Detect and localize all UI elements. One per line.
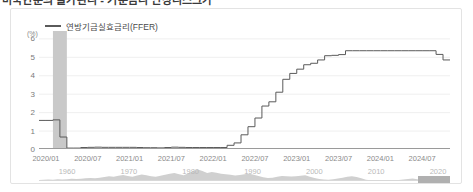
range-tick-label: 2010: [368, 167, 385, 176]
x-tick-label: 2022/07: [241, 154, 268, 163]
y-tick-label: 2: [31, 108, 35, 117]
x-tick-label: 2021/07: [158, 154, 185, 163]
range-selector[interactable]: 1960197019801990200020102020: [39, 167, 450, 183]
range-tick-label: 1970: [120, 167, 137, 176]
y-tick-label: 3: [31, 89, 35, 98]
x-tick-label: 2022/01: [200, 154, 227, 163]
x-tick-label: 2020/01: [32, 154, 59, 163]
y-tick-label: 6: [31, 34, 35, 43]
x-tick-label: 2021/01: [116, 154, 143, 163]
plot-area[interactable]: (%) 0123456 2020/012020/072021/012021/07…: [39, 31, 450, 149]
x-tick-label: 2024/07: [409, 154, 436, 163]
ffer-series-line: [39, 51, 450, 148]
x-tick-label: 2023/07: [325, 154, 352, 163]
range-tick-label: 1960: [59, 167, 76, 176]
line-swatch-icon: [45, 25, 61, 27]
range-tick-label: 1990: [244, 167, 261, 176]
y-tick-label: 5: [31, 52, 35, 61]
range-tick-label: 2020: [430, 167, 447, 176]
y-tick-label: 0: [31, 145, 35, 154]
range-tick-label: 2000: [306, 167, 323, 176]
x-tick-label: 2020/07: [74, 154, 101, 163]
grid-lines: [39, 39, 450, 149]
page-title: 미국연준의 물가관리 - 기준금리 인상리스크가: [2, 0, 213, 7]
chart-card: 연방기금실효금리(FFER) (%) 0123456 2020/012020/0…: [10, 8, 462, 184]
range-selection-handle[interactable]: [418, 176, 450, 183]
y-tick-label: 1: [31, 126, 35, 135]
y-tick-label: 4: [31, 71, 35, 80]
x-tick-label: 2024/01: [367, 154, 394, 163]
line-chart-svg: [39, 31, 450, 149]
x-tick-label: 2023/01: [283, 154, 310, 163]
range-tick-label: 1980: [182, 167, 199, 176]
